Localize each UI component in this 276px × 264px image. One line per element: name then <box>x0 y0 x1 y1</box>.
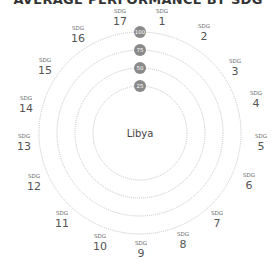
sdg-label-4: SDG4 <box>250 91 262 109</box>
sdg-label-16: SDG16 <box>71 26 85 44</box>
ring-label-100: 100 <box>135 29 146 35</box>
sdg-label-8: SDG8 <box>177 232 189 250</box>
sdg-label-17: SDG17 <box>113 9 127 27</box>
ring-label-75: 75 <box>137 47 144 53</box>
sdg-label-3: SDG3 <box>229 59 241 77</box>
sdg-label-1: SDG1 <box>156 9 168 27</box>
sdg-label-13: SDG13 <box>17 134 31 152</box>
sdg-label-2: SDG2 <box>198 24 210 42</box>
country-label: Libya <box>127 128 154 139</box>
sdg-label-11: SDG11 <box>55 211 69 229</box>
sdg-label-15: SDG15 <box>38 58 52 76</box>
sdg-label-9: SDG9 <box>135 241 147 259</box>
sdg-label-10: SDG10 <box>93 234 107 252</box>
sdg-label-5: SDG5 <box>255 134 267 152</box>
sdg-label-12: SDG12 <box>27 174 41 192</box>
ring-label-50: 50 <box>137 65 144 71</box>
sdg-label-6: SDG6 <box>243 173 255 191</box>
ring-label-25: 25 <box>137 83 144 89</box>
sdg-label-14: SDG14 <box>19 96 33 114</box>
sdg-label-7: SDG7 <box>211 211 223 229</box>
